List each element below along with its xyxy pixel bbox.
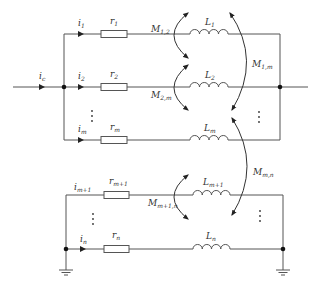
label-i2: i2 <box>78 71 85 82</box>
label-Lm: Lm <box>203 123 216 134</box>
ellipsis-left-upper <box>91 110 93 122</box>
inductor-L1 <box>190 30 228 34</box>
lower-left-junction-dot <box>64 247 69 252</box>
resistor-rn <box>104 246 129 253</box>
resistor-rm1 <box>104 192 129 199</box>
circuit-diagram: ic i1 i2 im im+1 in r1 r2 rm rm+1 rn L1 … <box>0 0 318 285</box>
ground-right-icon <box>276 270 290 275</box>
arrow-in-icon <box>80 246 86 252</box>
mutual-arc-M12-icon <box>174 13 188 58</box>
ellipsis-left-lower <box>92 213 94 225</box>
arrow-im-icon <box>78 137 84 143</box>
label-im: im <box>78 124 87 135</box>
label-in: in <box>80 234 87 245</box>
label-Ln: Ln <box>205 231 216 242</box>
resistor-rm <box>101 137 127 144</box>
lower-right-junction-dot <box>281 247 286 252</box>
output-junction-dot <box>278 85 283 90</box>
resistor-r1 <box>101 31 127 38</box>
ellipsis-right-upper <box>258 111 260 123</box>
resistor-r2 <box>101 84 127 91</box>
label-rn: rn <box>112 230 120 241</box>
circuit-svg: ic i1 i2 im im+1 in r1 r2 rm rm+1 rn L1 … <box>0 0 318 285</box>
label-im1: im+1 <box>74 182 91 193</box>
label-M12: M1,2 <box>150 24 170 35</box>
ground-left-icon <box>59 270 73 275</box>
upper-group-wiring <box>13 34 308 140</box>
inductor-Ln <box>193 244 230 249</box>
arrow-i2-icon <box>78 84 84 90</box>
label-Mmn: Mm,n <box>252 167 274 178</box>
label-Lm1: Lm+1 <box>202 177 224 188</box>
mutual-arc-Mmn-icon <box>232 118 247 215</box>
label-M2m: M2,m <box>150 90 172 101</box>
label-i1: i1 <box>78 18 85 29</box>
inductor-Lm1 <box>193 190 230 195</box>
inductor-Lm <box>190 136 228 141</box>
ellipsis-right-lower <box>259 210 261 222</box>
label-r1: r1 <box>110 16 118 27</box>
inductor-L2 <box>190 83 228 88</box>
label-rm: rm <box>110 122 120 133</box>
arrow-ic-icon <box>39 84 45 90</box>
mutual-arc-Mm1n-icon <box>174 175 188 219</box>
label-ic: ic <box>39 71 46 82</box>
label-r2: r2 <box>110 69 118 80</box>
label-M1m: M1,m <box>251 59 273 70</box>
label-rm1: rm+1 <box>109 176 128 187</box>
label-L1: L1 <box>204 17 215 28</box>
mutual-arc-M1m-icon <box>230 13 247 110</box>
label-Mm1n: Mm+1,n <box>147 198 178 209</box>
arrow-i1-icon <box>78 31 84 37</box>
label-L2: L2 <box>204 70 215 81</box>
input-junction-dot <box>62 85 67 90</box>
